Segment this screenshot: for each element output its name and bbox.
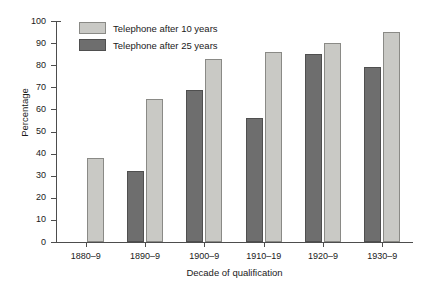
legend-swatch-dark (79, 39, 106, 51)
chart-figure: 0102030405060708090100 Percentage 1880–9… (0, 0, 424, 289)
x-axis-tick (382, 243, 383, 247)
y-axis-title: Percentage (19, 53, 30, 173)
plot-area (56, 21, 412, 242)
x-axis-tick (86, 243, 87, 247)
bar (265, 52, 282, 242)
legend-item: Telephone after 25 years (79, 39, 218, 51)
bar (246, 118, 263, 242)
x-axis-tick-label: 1880–9 (56, 251, 116, 261)
x-axis-tick-label: 1910–19 (234, 251, 294, 261)
legend-swatch-light (79, 22, 106, 34)
bar (186, 90, 203, 242)
bar (87, 158, 104, 242)
legend-item: Telephone after 10 years (79, 22, 218, 34)
x-axis-line (56, 242, 413, 243)
y-axis-tick-label: 100 (6, 17, 46, 26)
x-axis-tick-label: 1920–9 (293, 251, 353, 261)
y-axis-tick-label: 20 (6, 193, 46, 202)
x-axis-tick-label: 1930–9 (352, 251, 412, 261)
x-axis-tick (264, 243, 265, 247)
y-axis-tick-label: 30 (6, 171, 46, 180)
bar (305, 54, 322, 242)
legend-label: Telephone after 25 years (113, 40, 218, 51)
bar (364, 67, 381, 242)
y-axis-tick (51, 242, 56, 243)
bar (127, 171, 144, 242)
x-axis-tick-label: 1900–9 (174, 251, 234, 261)
y-axis-tick-label: 10 (6, 215, 46, 224)
x-axis-tick (145, 243, 146, 247)
bar (383, 32, 400, 242)
y-axis-tick-label: 90 (6, 39, 46, 48)
bar (324, 43, 341, 242)
bar (146, 99, 163, 242)
x-axis-tick (204, 243, 205, 247)
y-axis-tick-label: 0 (6, 238, 46, 247)
chart-legend: Telephone after 10 yearsTelephone after … (79, 22, 218, 51)
x-axis-tick-label: 1890–9 (115, 251, 175, 261)
bar (205, 59, 222, 242)
x-axis-title: Decade of qualification (56, 267, 413, 278)
legend-label: Telephone after 10 years (113, 23, 218, 34)
x-axis-tick (323, 243, 324, 247)
